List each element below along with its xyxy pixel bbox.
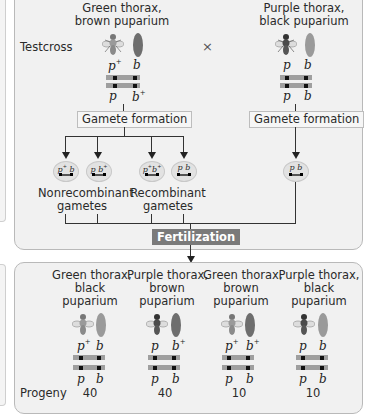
chromosome bbox=[106, 75, 140, 80]
allele-label: p bbox=[151, 372, 159, 386]
allele-label: b+ bbox=[172, 338, 186, 353]
puparium-icon bbox=[171, 313, 181, 337]
allele: p bbox=[108, 59, 116, 73]
arrow-down-icon bbox=[180, 152, 188, 159]
puparium-icon bbox=[305, 33, 315, 57]
allele-label: b bbox=[96, 372, 104, 386]
allele-label: p bbox=[283, 58, 291, 72]
phenotype-line: puparium bbox=[52, 295, 128, 308]
allele-label: b+ bbox=[132, 89, 146, 104]
fly-icon bbox=[221, 312, 243, 338]
arrow-down-icon bbox=[148, 152, 156, 159]
puparium-icon bbox=[318, 313, 328, 337]
allele: b bbox=[304, 58, 312, 72]
arrow-down-icon bbox=[94, 152, 102, 159]
phenotype-line: puparium bbox=[203, 295, 279, 308]
fly-icon bbox=[293, 312, 315, 338]
connector-line bbox=[295, 182, 296, 224]
chromosome bbox=[148, 355, 180, 360]
allele-label: b bbox=[133, 58, 141, 72]
allele-label: p bbox=[225, 372, 233, 386]
phenotype-line: black puparium bbox=[254, 15, 354, 28]
gamete: p b bbox=[283, 161, 309, 182]
connector-line bbox=[124, 127, 125, 136]
allele-superscript: + bbox=[116, 58, 122, 66]
chromosome bbox=[222, 365, 254, 370]
allele-label: b bbox=[96, 338, 104, 353]
allele: b bbox=[304, 89, 312, 103]
puparium-icon bbox=[245, 313, 255, 337]
allele: p bbox=[283, 58, 291, 72]
allele-superscript: + bbox=[140, 89, 146, 97]
gamete: p b+ bbox=[86, 161, 112, 182]
progeny-count: 40 bbox=[72, 387, 108, 400]
connector-line bbox=[183, 136, 184, 153]
allele: p bbox=[109, 89, 117, 103]
arrow-down-icon bbox=[292, 152, 300, 159]
phenotype-line: puparium bbox=[277, 295, 361, 308]
connector-line bbox=[97, 136, 98, 153]
allele-label: p bbox=[283, 89, 291, 103]
chromosome bbox=[280, 75, 312, 80]
chromosome bbox=[296, 355, 328, 360]
left-parent-phenotype: Green thorax, brown puparium bbox=[72, 2, 172, 28]
allele-label: b bbox=[172, 372, 180, 386]
label-line: gametes bbox=[38, 200, 126, 213]
progeny-count: 10 bbox=[295, 387, 331, 400]
progeny-count: 40 bbox=[147, 387, 183, 400]
allele: b bbox=[132, 90, 140, 104]
allele-label: p+ bbox=[225, 338, 239, 353]
progeny-column: Purple thorax, brown puparium bbox=[127, 269, 207, 308]
arrow-down-icon bbox=[62, 152, 70, 159]
cross-symbol: × bbox=[202, 40, 213, 53]
gamete: p+ b bbox=[53, 161, 79, 182]
nonrecombinant-label: Nonrecombinant gametes bbox=[38, 187, 126, 213]
allele-label: b bbox=[319, 372, 327, 386]
progeny-count: 10 bbox=[221, 387, 257, 400]
allele-label: p bbox=[77, 372, 85, 386]
allele-label: b bbox=[304, 89, 312, 103]
left-edge-panel-fragment bbox=[0, 0, 6, 222]
fly-icon bbox=[102, 32, 124, 58]
allele-label: p+ bbox=[108, 58, 122, 73]
recombinant-label: Recombinant gametes bbox=[128, 187, 208, 213]
connector-line bbox=[295, 127, 296, 153]
phenotype-line: puparium bbox=[127, 295, 207, 308]
allele: b bbox=[133, 58, 141, 72]
allele-label: b bbox=[319, 338, 327, 353]
chromosome bbox=[73, 355, 105, 360]
gamete-formation-box-right: Gamete formation bbox=[249, 111, 364, 128]
chromosome bbox=[106, 83, 140, 88]
fly-icon bbox=[275, 32, 297, 58]
allele-label: p bbox=[109, 89, 117, 103]
chromosome bbox=[280, 83, 312, 88]
merge-line bbox=[65, 223, 296, 224]
progeny-column: Purple thorax, black puparium bbox=[277, 269, 361, 308]
connector-line bbox=[65, 136, 66, 153]
phenotype-line: brown puparium bbox=[72, 15, 172, 28]
allele-label: p bbox=[299, 338, 307, 353]
chromosome bbox=[222, 355, 254, 360]
right-parent-phenotype: Purple thorax, black puparium bbox=[254, 2, 354, 28]
fly-icon bbox=[72, 312, 94, 338]
testcross-label: Testcross bbox=[20, 41, 72, 54]
allele-label: p+ bbox=[77, 338, 91, 353]
fly-icon bbox=[146, 312, 168, 338]
allele-label: p bbox=[299, 372, 307, 386]
allele-label: p bbox=[151, 338, 159, 353]
branch-line bbox=[65, 136, 184, 137]
fertilization-label: Fertilization bbox=[152, 229, 240, 245]
allele-label: b bbox=[246, 372, 254, 386]
connector-line bbox=[151, 136, 152, 153]
gamete-formation-box-left: Gamete formation bbox=[77, 111, 192, 128]
allele-label: b bbox=[304, 58, 312, 72]
gamete: p b bbox=[171, 161, 197, 182]
allele: p bbox=[283, 89, 291, 103]
progeny-column: Green thorax, brown puparium bbox=[203, 269, 279, 308]
progeny-column: Green thorax, black puparium bbox=[52, 269, 128, 308]
progeny-label: Progeny bbox=[20, 387, 67, 400]
allele-label: b+ bbox=[246, 338, 260, 353]
label-line: gametes bbox=[128, 200, 208, 213]
gamete: p+b+ bbox=[139, 161, 165, 182]
chromosome bbox=[296, 365, 328, 370]
